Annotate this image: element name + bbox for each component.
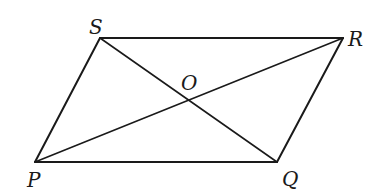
vertex-label-r: R <box>347 27 363 51</box>
parallelogram-diagram: S R P Q O <box>0 0 374 195</box>
intersection-label-o: O <box>181 71 197 95</box>
side-ps <box>35 38 100 162</box>
vertex-label-q: Q <box>282 167 298 191</box>
side-rq <box>277 38 343 162</box>
diagonal-sq <box>100 38 277 162</box>
vertex-label-p: P <box>26 168 41 192</box>
vertex-label-s: S <box>89 15 103 39</box>
